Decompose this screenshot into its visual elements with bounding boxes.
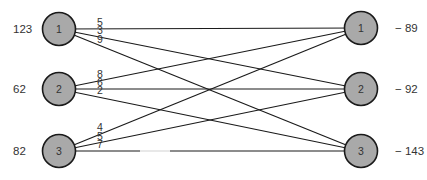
source-node-3: 3	[43, 135, 76, 168]
supply-value: 82	[13, 145, 26, 157]
edge-labels-layer: 539862457	[97, 16, 103, 150]
demand-value: − 92	[395, 83, 418, 95]
source-node-2: 2	[43, 73, 76, 106]
supply-value: 62	[13, 83, 26, 95]
sink-node-1: 1	[345, 12, 378, 45]
edges-layer	[59, 28, 361, 153]
source-node-label: 2	[56, 83, 62, 95]
sink-node-label: 2	[358, 83, 364, 95]
edge-1-1	[59, 28, 361, 29]
edge-cost-label: 9	[97, 33, 103, 45]
source-node-label: 1	[56, 23, 62, 35]
sink-node-3: 3	[345, 135, 378, 168]
sink-node-label: 1	[358, 22, 364, 34]
source-node-1: 1	[43, 13, 76, 46]
supply-value: 123	[13, 23, 32, 35]
sink-node-label: 3	[358, 145, 364, 157]
edge-cost-label: 2	[97, 84, 103, 96]
line-artifact	[140, 150, 170, 153]
demand-value: − 143	[395, 145, 424, 157]
demand-value: − 89	[395, 22, 418, 34]
source-node-label: 3	[56, 145, 62, 157]
edge-cost-label: 7	[97, 138, 103, 150]
network-diagram: 539862457 123123 1236282− 89− 92− 143	[0, 0, 427, 180]
diagram-canvas: 539862457 123123 1236282− 89− 92− 143	[0, 0, 427, 180]
sink-node-2: 2	[345, 73, 378, 106]
